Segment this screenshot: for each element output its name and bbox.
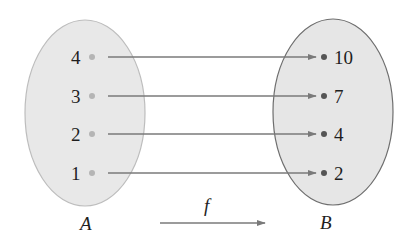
- set-b-ellipse: [273, 19, 393, 205]
- codomain-dot-7: [321, 93, 327, 99]
- function-diagram: 4 3 2 1 10 7 4 2 A B f: [0, 0, 409, 242]
- domain-element-4: 4: [71, 47, 81, 68]
- codomain-dot-4: [321, 131, 327, 137]
- domain-dot-1: [89, 170, 95, 176]
- codomain-element-2: 2: [334, 163, 344, 184]
- set-a-ellipse: [25, 20, 145, 206]
- domain-dot-3: [89, 93, 95, 99]
- function-label: f: [204, 195, 212, 216]
- codomain-dot-2: [321, 170, 327, 176]
- domain-element-1: 1: [71, 163, 81, 184]
- domain-dot-4: [89, 54, 95, 60]
- domain-element-2: 2: [71, 124, 81, 145]
- codomain-element-10: 10: [334, 47, 353, 68]
- codomain-element-7: 7: [334, 86, 344, 107]
- domain-element-3: 3: [71, 86, 81, 107]
- set-a-label: A: [78, 213, 92, 234]
- set-b-label: B: [320, 212, 332, 233]
- codomain-dot-10: [321, 54, 327, 60]
- codomain-element-4: 4: [334, 124, 344, 145]
- domain-dot-2: [89, 131, 95, 137]
